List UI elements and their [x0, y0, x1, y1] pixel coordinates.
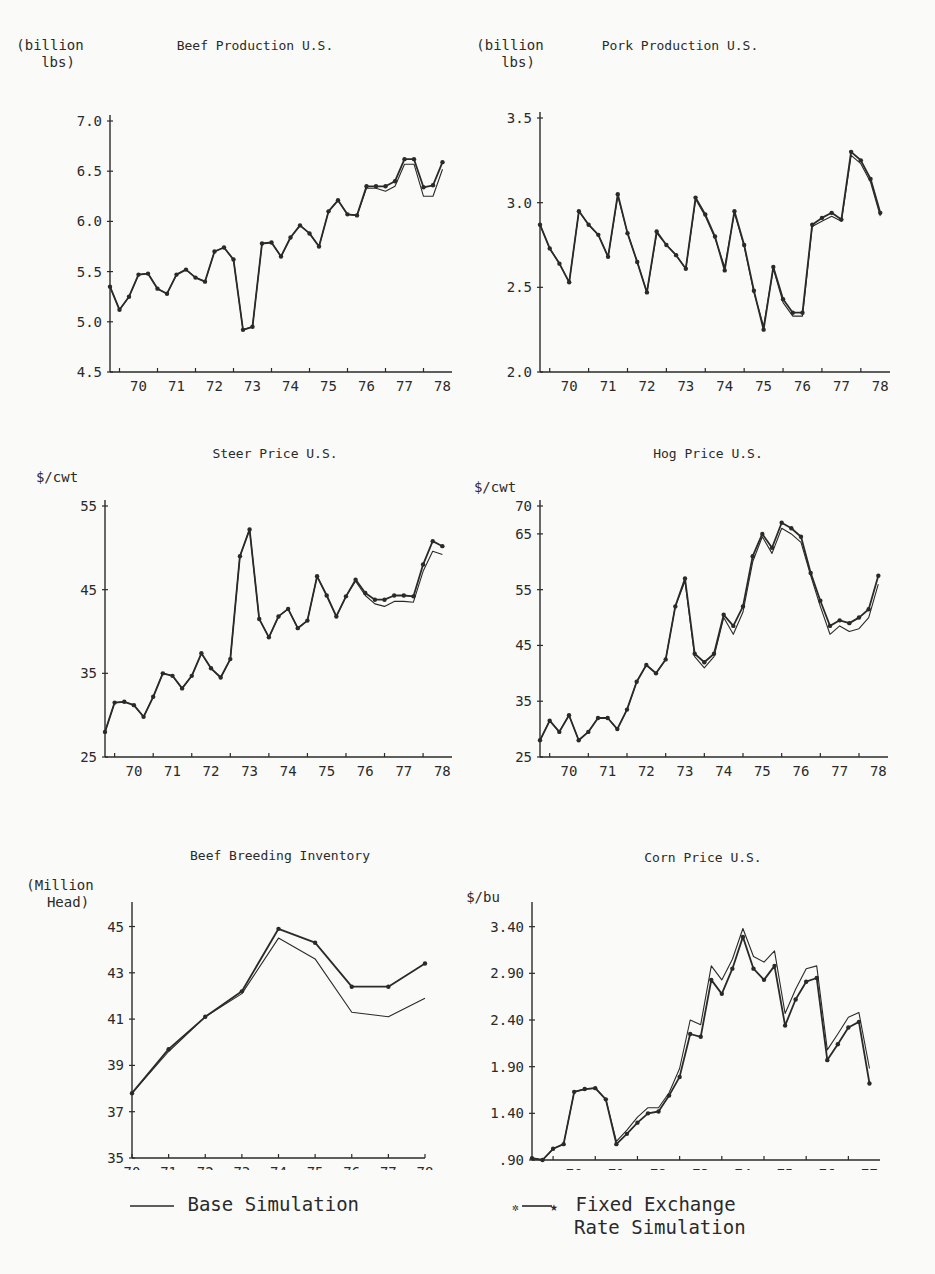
chart-title: Corn Price U.S. — [644, 850, 761, 865]
data-point-marker — [604, 1097, 608, 1101]
y-tick-label: 37 — [107, 1104, 124, 1120]
data-point-marker — [586, 222, 590, 226]
y-tick-label: 6.5 — [77, 163, 102, 179]
data-point-marker — [791, 311, 795, 315]
data-point-marker — [847, 621, 851, 625]
y-tick-label: 2.90 — [490, 965, 524, 981]
data-point-marker — [132, 703, 136, 707]
data-point-marker — [761, 327, 765, 331]
x-tick-label: 77 — [396, 378, 413, 394]
y-tick-label: 5.0 — [77, 314, 102, 330]
y-axis-label: (billion — [16, 37, 83, 53]
data-point-marker — [298, 223, 302, 227]
data-point-marker — [431, 539, 435, 543]
data-point-marker — [586, 730, 590, 734]
data-point-marker — [593, 1086, 597, 1090]
y-tick-label: 4.5 — [77, 364, 102, 380]
x-tick-label: 78 — [417, 1164, 434, 1170]
data-point-marker — [257, 617, 261, 621]
x-tick-label: 75 — [318, 763, 335, 779]
y-tick-label: 55 — [515, 582, 532, 598]
data-point-marker — [228, 657, 232, 661]
data-point-marker — [721, 613, 725, 617]
x-tick-label: 70 — [561, 763, 578, 779]
data-point-marker — [307, 231, 311, 235]
data-point-marker — [540, 1158, 544, 1162]
x-tick-label: 77 — [831, 763, 848, 779]
x-tick-label: 72 — [650, 1166, 667, 1170]
data-point-marker — [383, 184, 387, 188]
data-point-marker — [664, 243, 668, 247]
data-point-marker — [804, 980, 808, 984]
data-point-marker — [334, 614, 338, 618]
data-point-marker — [703, 212, 707, 216]
legend-fixed-label-line1: Fixed Exchange — [575, 1193, 735, 1215]
x-tick-label: 77 — [395, 763, 412, 779]
data-point-marker — [231, 257, 235, 261]
data-point-marker — [209, 666, 213, 670]
x-tick-label: 77 — [380, 1164, 397, 1170]
y-tick-label: 65 — [515, 526, 532, 542]
data-point-marker — [752, 289, 756, 293]
x-tick-label: 77 — [861, 1166, 878, 1170]
data-point-marker — [772, 964, 776, 968]
data-point-marker — [276, 927, 280, 931]
data-point-marker — [218, 675, 222, 679]
x-tick-label: 70 — [124, 1164, 141, 1170]
x-tick-label: 75 — [777, 1166, 794, 1170]
chart-svg: Corn Price U.S.$/bu.901.401.902.402.903.… — [460, 840, 935, 1170]
data-point-marker — [818, 599, 822, 603]
data-point-marker — [103, 730, 107, 734]
data-point-marker — [868, 177, 872, 181]
data-point-marker — [247, 527, 251, 531]
data-point-marker — [673, 604, 677, 608]
data-point-marker — [625, 707, 629, 711]
data-point-marker — [688, 1032, 692, 1036]
data-point-marker — [720, 992, 724, 996]
series-fixed-exchange-line — [532, 937, 870, 1160]
y-tick-label: 35 — [80, 665, 97, 681]
data-point-marker — [878, 211, 882, 215]
data-point-marker — [731, 624, 735, 628]
x-tick-label: 74 — [280, 763, 297, 779]
data-point-marker — [336, 198, 340, 202]
data-point-marker — [810, 222, 814, 226]
x-tick-label: 76 — [343, 1164, 360, 1170]
data-point-marker — [596, 716, 600, 720]
y-tick-label: 5.5 — [77, 264, 102, 280]
x-tick-label: 73 — [241, 763, 258, 779]
data-point-marker — [783, 1023, 787, 1027]
y-tick-label: 3.5 — [507, 110, 532, 126]
y-tick-label: 35 — [515, 693, 532, 709]
data-point-marker — [382, 598, 386, 602]
data-point-marker — [548, 246, 552, 250]
data-point-marker — [645, 290, 649, 294]
x-tick-label: 72 — [197, 1164, 214, 1170]
data-point-marker — [374, 184, 378, 188]
y-tick-label: 55 — [80, 498, 97, 514]
data-point-marker — [849, 150, 853, 154]
data-point-marker — [538, 222, 542, 226]
data-point-marker — [684, 267, 688, 271]
data-point-marker — [654, 229, 658, 233]
x-tick-label: 73 — [677, 378, 694, 394]
data-point-marker — [815, 976, 819, 980]
legend-line-plain-icon — [128, 1200, 176, 1212]
data-point-marker — [551, 1147, 555, 1151]
data-point-marker — [317, 244, 321, 248]
data-point-marker — [663, 657, 667, 661]
x-tick-label: 75 — [754, 763, 771, 779]
data-point-marker — [136, 272, 140, 276]
y-tick-label: 6.0 — [77, 213, 102, 229]
data-point-marker — [279, 254, 283, 258]
data-point-marker — [421, 562, 425, 566]
y-axis-label: lbs) — [501, 54, 535, 70]
data-point-marker — [820, 216, 824, 220]
x-tick-label: 71 — [599, 763, 616, 779]
data-point-marker — [344, 594, 348, 598]
x-tick-label: 72 — [638, 763, 655, 779]
y-axis-label: $/bu — [466, 889, 500, 905]
data-point-marker — [576, 738, 580, 742]
chart-title: Pork Production U.S. — [602, 38, 759, 53]
x-tick-label: 78 — [872, 378, 889, 394]
